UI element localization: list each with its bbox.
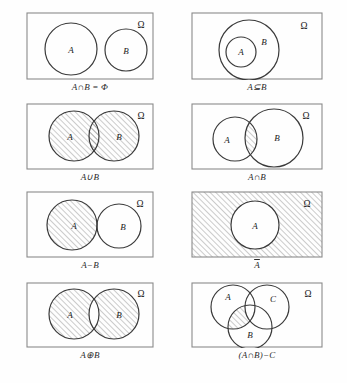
panel-triple-sets: A C B Ω (A∩B)−C <box>191 282 323 348</box>
venn-symmetric-difference: A B Ω <box>26 282 154 348</box>
shaded-region-union <box>49 111 139 161</box>
shaded-region-symmetric-difference <box>26 282 154 348</box>
panel-disjoint-sets: A B Ω A∩B = Φ <box>26 12 154 80</box>
venn-union: A B Ω <box>26 103 154 170</box>
caption-text: (A∩B)−C <box>239 350 276 360</box>
panel-intersection: A B Ω A∩B <box>191 103 323 170</box>
circle-b <box>219 20 279 80</box>
label-set-b: B <box>261 37 267 47</box>
label-universe: Ω <box>136 199 143 209</box>
label-universe: Ω <box>303 199 310 209</box>
venn-subset: A B Ω <box>191 12 323 80</box>
venn-complement: A Ω <box>191 191 323 258</box>
panel-difference: A B Ω A−B <box>26 191 154 258</box>
caption-union: A∪B <box>26 172 154 182</box>
label-set-a: A <box>224 292 231 302</box>
panel-union: A B Ω A∪B <box>26 103 154 170</box>
caption-text: A−B <box>81 260 99 270</box>
label-set-a: A <box>237 47 244 57</box>
label-set-c: C <box>270 294 277 304</box>
caption-intersection: A∩B <box>191 172 323 182</box>
label-universe: Ω <box>137 111 144 121</box>
label-set-b: B <box>120 222 126 232</box>
caption-text: A∪B <box>81 172 100 182</box>
caption-text: A⊆B <box>247 82 267 92</box>
venn-difference: A B Ω <box>26 191 154 258</box>
label-universe: Ω <box>137 20 144 30</box>
caption-difference: A−B <box>26 260 154 270</box>
label-set-a: A <box>70 221 77 231</box>
figure-sheet: A B Ω A∩B = Φ A B Ω A⊆B <box>0 0 347 383</box>
panel-symmetric-difference: A B Ω A⊕B <box>26 282 154 348</box>
venn-triple: A C B Ω <box>191 282 323 348</box>
label-universe: Ω <box>137 289 144 299</box>
caption-triple: (A∩B)−C <box>191 350 323 360</box>
caption-symmetric-difference: A⊕B <box>26 350 154 360</box>
caption-complement: A <box>191 260 323 270</box>
caption-text: A∩B <box>248 172 266 182</box>
label-set-a: A <box>67 45 74 55</box>
panel-subset: A B Ω A⊆B <box>191 12 323 80</box>
caption-text: A∩B = Φ <box>72 82 108 92</box>
panel-complement: A Ω A <box>191 191 323 258</box>
label-set-a: A <box>66 132 73 142</box>
venn-intersection: A B Ω <box>191 103 323 170</box>
caption-text: A <box>254 260 260 270</box>
label-universe: Ω <box>304 289 311 299</box>
shaded-region-difference <box>26 191 154 258</box>
label-set-b: B <box>274 133 280 143</box>
label-universe: Ω <box>302 111 309 121</box>
caption-text: A⊕B <box>80 350 100 360</box>
label-set-a: A <box>251 221 258 231</box>
caption-disjoint: A∩B = Φ <box>26 82 154 92</box>
label-set-b: B <box>116 310 122 320</box>
label-universe: Ω <box>300 21 307 31</box>
label-set-a: A <box>66 310 73 320</box>
label-set-a: A <box>223 135 230 145</box>
label-set-b: B <box>247 330 253 340</box>
label-set-b: B <box>123 46 129 56</box>
venn-disjoint: A B Ω <box>26 12 154 80</box>
caption-subset: A⊆B <box>191 82 323 92</box>
shaded-region-triple <box>191 282 323 348</box>
label-set-b: B <box>116 132 122 142</box>
